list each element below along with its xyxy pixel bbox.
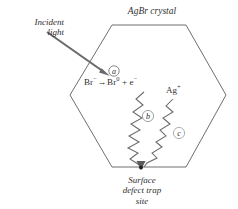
reactant-bromide: Br — [84, 77, 93, 87]
incident-light-label: Incidentlight — [2, 18, 64, 37]
surface-defect-trap-point — [137, 161, 146, 170]
silver-symbol: Ag — [166, 85, 177, 95]
silver-ion-label: Ag+ — [166, 86, 181, 96]
silver-charge: + — [177, 83, 181, 90]
product-bromine-charge: 0 — [116, 75, 119, 82]
incident-light-line-2: light — [47, 27, 64, 37]
trap-site-line-3: site — [136, 196, 149, 206]
incident-light-arrow — [47, 32, 110, 76]
marker-b-label: b — [146, 112, 150, 121]
reaction-plus-sign: + — [122, 77, 127, 87]
trap-site-line-1: Surface — [128, 175, 156, 185]
reaction-arrow-icon: → — [97, 77, 107, 87]
marker-c: c — [173, 127, 184, 138]
photolysis-reaction-equation: Br−→Br0 + e− — [84, 78, 137, 88]
marker-b: b — [142, 110, 153, 121]
marker-c-label: c — [177, 129, 181, 138]
incident-light-line-1: Incident — [35, 17, 65, 27]
product-electron-charge: − — [134, 75, 138, 82]
trap-site-caption: Surfacedefect trapsite — [84, 175, 200, 206]
silver-ion-zigzag-c — [144, 99, 173, 167]
trap-site-line-2: defect trap — [123, 185, 162, 195]
crystal-title-label: AgBr crystal — [104, 6, 200, 16]
electron-zigzag-b — [128, 92, 144, 166]
product-bromine: Br — [107, 77, 116, 87]
agbr-crystal-hexagon — [70, 25, 226, 167]
